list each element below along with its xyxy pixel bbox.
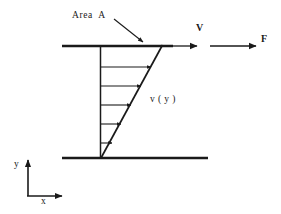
- area-label: Area A: [72, 11, 106, 21]
- velocity-function-label: v ( y ): [150, 95, 176, 105]
- axis-x-label: x: [41, 197, 46, 207]
- velocity-label: V: [196, 23, 203, 33]
- figure-canvas: [0, 0, 281, 214]
- axis-y-label: y: [14, 160, 19, 170]
- coordinate-axes: [27, 160, 62, 196]
- force-label: F: [261, 34, 267, 44]
- velocity-profile-figure: Area A V F v ( y ) y x: [0, 0, 281, 214]
- area-leader-arrow: [114, 19, 143, 42]
